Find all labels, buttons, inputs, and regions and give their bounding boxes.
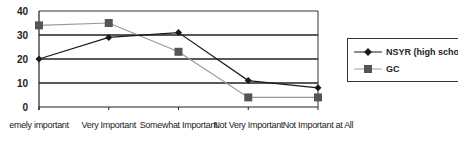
y-tick-label: 40 [17, 6, 29, 17]
y-tick-label: 30 [17, 30, 29, 41]
y-tick-label: 10 [17, 78, 29, 89]
square-marker-icon [354, 64, 382, 74]
x-tick-label: Somewhat Important [140, 120, 218, 130]
square-marker-icon [314, 93, 322, 101]
x-tick-label: emely important [9, 120, 69, 130]
series-lines [35, 19, 322, 101]
x-tick-label: Very Important [82, 120, 137, 130]
legend-item-nsyr: NSYR (high scho [354, 45, 458, 59]
x-tick-label: Not Very Important [213, 120, 283, 130]
legend: NSYR (high scho GC [347, 38, 458, 82]
square-marker-icon [105, 19, 113, 27]
gridlines [39, 11, 318, 107]
x-axis: emely importantVery ImportantSomewhat Im… [9, 107, 353, 130]
square-marker-icon [175, 48, 183, 56]
diamond-marker-icon [315, 84, 322, 91]
legend-item-gc: GC [354, 62, 400, 76]
square-marker-icon [35, 21, 43, 29]
series-line [39, 33, 318, 88]
legend-label-nsyr: NSYR (high scho [386, 47, 458, 57]
legend-label-gc: GC [386, 64, 400, 74]
y-tick-label: 0 [22, 102, 28, 113]
x-tick-label: Not Important at All [283, 120, 354, 130]
diamond-marker-icon [36, 56, 43, 63]
square-marker-icon [244, 93, 252, 101]
diamond-marker-icon [354, 47, 382, 57]
y-tick-label: 20 [17, 54, 29, 65]
